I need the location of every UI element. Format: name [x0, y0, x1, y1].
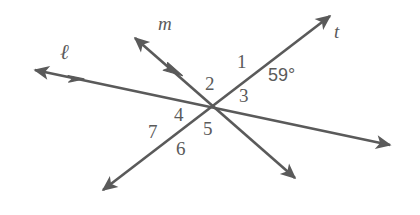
line-label-l: ℓ	[60, 42, 69, 63]
angle-label-5: 5	[203, 119, 213, 138]
angle-measure-59: 59°	[268, 66, 295, 84]
angle-label-4: 4	[174, 105, 184, 124]
angle-label-1: 1	[237, 52, 247, 71]
line-m	[135, 38, 295, 178]
angle-label-2: 2	[205, 74, 215, 93]
angle-label-6: 6	[176, 139, 186, 158]
angle-label-3: 3	[239, 86, 249, 105]
angle-label-7: 7	[148, 122, 158, 141]
line-label-t: t	[334, 22, 339, 41]
line-label-m: m	[158, 14, 172, 33]
line-m-group	[135, 38, 295, 178]
line-t-group	[103, 16, 330, 190]
line-t	[103, 16, 330, 190]
geometry-figure: ℓ m t 1 2 3 4 5 6 7 59°	[0, 0, 420, 215]
geometry-canvas	[0, 0, 420, 215]
